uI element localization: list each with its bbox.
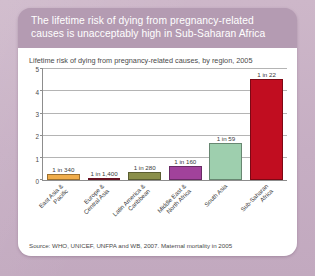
card-header: The lifetime risk of dying from pregnanc… bbox=[18, 8, 297, 48]
y-axis-tick: 1 bbox=[35, 155, 39, 162]
x-axis-label: South Asia bbox=[203, 183, 228, 208]
x-axis-label: Middle East &North Africa bbox=[156, 183, 192, 219]
bar-value-label: 1 in 59 bbox=[217, 135, 236, 142]
bar-series: 1 in 3401 in 1,4001 in 2801 in 1601 in 5… bbox=[43, 69, 287, 180]
bar[interactable] bbox=[47, 174, 80, 180]
y-axis-tick: 3 bbox=[35, 111, 39, 118]
bar-value-label: 1 in 1,400 bbox=[90, 170, 117, 177]
bar[interactable] bbox=[169, 166, 202, 180]
x-axis-label: Europe &Central Asia bbox=[78, 183, 111, 216]
x-axis-label: Sub-SaharanAfrica bbox=[239, 183, 274, 218]
plot-area: 1 in 3401 in 1,4001 in 2801 in 1601 in 5… bbox=[42, 69, 287, 181]
bar-value-label: 1 in 160 bbox=[174, 158, 196, 165]
y-axis-tick: 2 bbox=[35, 133, 39, 140]
bar-value-label: 1 in 280 bbox=[134, 164, 156, 171]
y-axis-tick: 0 bbox=[35, 178, 39, 185]
source-note: Source: WHO, UNICEF, UNFPA and WB, 2007.… bbox=[29, 242, 232, 249]
y-axis-tick: 5 bbox=[35, 66, 39, 73]
bar-slot: 1 in 160 bbox=[169, 69, 202, 180]
x-axis-labels: East Asia &PacificEurope &Central AsiaLa… bbox=[42, 181, 287, 227]
bar[interactable] bbox=[128, 172, 161, 180]
card-title: The lifetime risk of dying from pregnanc… bbox=[31, 15, 284, 40]
bar-slot: 1 in 59 bbox=[209, 69, 242, 180]
y-axis: 012345 bbox=[29, 69, 41, 181]
bar[interactable] bbox=[88, 178, 121, 180]
x-axis-label: East Asia &Pacific bbox=[38, 183, 70, 215]
bar-slot: 1 in 280 bbox=[128, 69, 161, 180]
bar[interactable] bbox=[250, 79, 283, 180]
bar-value-label: 1 in 340 bbox=[52, 166, 74, 173]
figure-card: The lifetime risk of dying from pregnanc… bbox=[18, 8, 297, 256]
x-axis-label: Latin America &Caribbean bbox=[112, 183, 152, 223]
chart-panel: Lifetime risk of dying from pregnancy-re… bbox=[18, 48, 297, 256]
bar-slot: 1 in 1,400 bbox=[88, 69, 121, 180]
plot-wrapper: 012345 1 in 3401 in 1,4001 in 2801 in 16… bbox=[29, 69, 287, 181]
chart-subtitle: Lifetime risk of dying from pregnancy-re… bbox=[29, 56, 287, 65]
bar-value-label: 1 in 22 bbox=[257, 71, 276, 78]
bar-slot: 1 in 340 bbox=[47, 69, 80, 180]
bar-slot: 1 in 22 bbox=[250, 69, 283, 180]
y-axis-tick: 4 bbox=[35, 88, 39, 95]
bar[interactable] bbox=[209, 143, 242, 181]
